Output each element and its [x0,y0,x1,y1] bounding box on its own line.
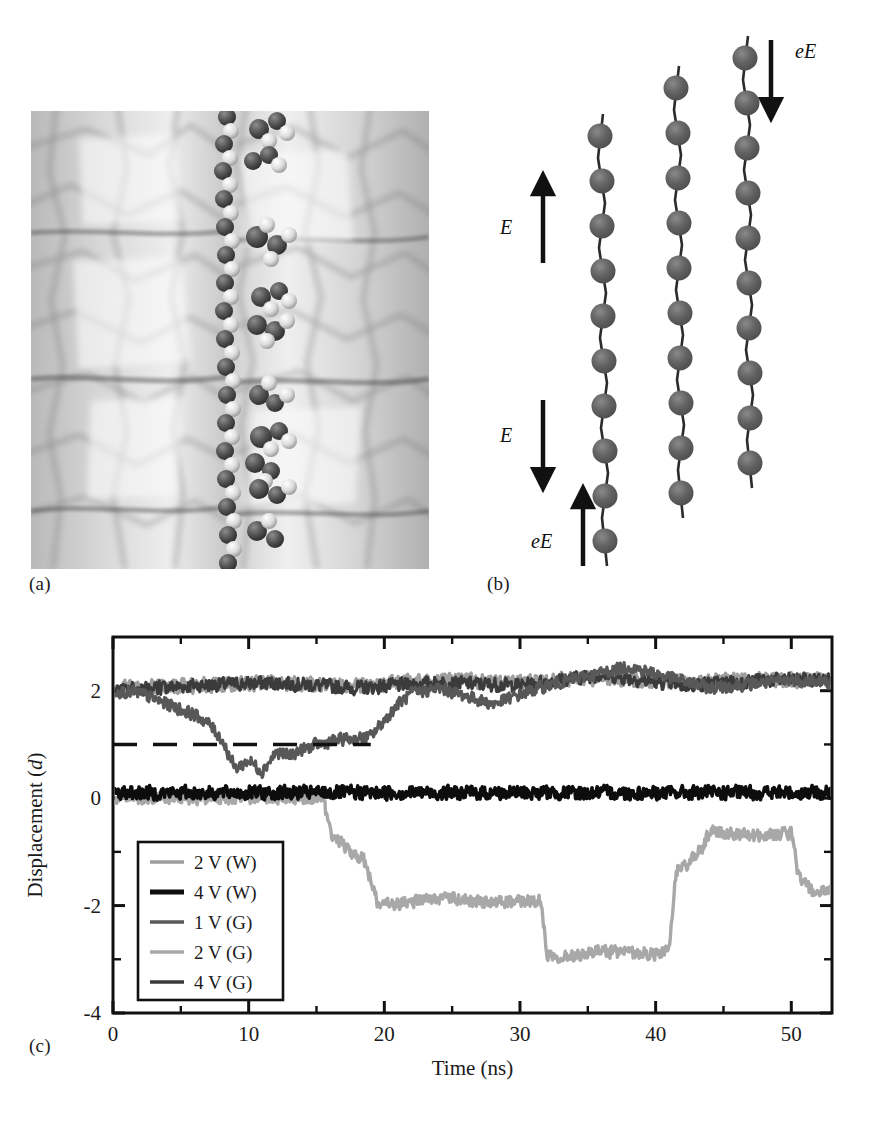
bead [669,481,694,506]
bead [667,211,692,236]
chart-legend: 2 V (W)4 V (W)1 V (G)2 V (G)4 V (G) [138,842,283,1000]
y-tick-label: -4 [84,1001,102,1025]
bead [738,361,763,386]
y-tick-label: -2 [84,894,102,918]
x-tick-label: 50 [781,1022,802,1046]
field-down-label: E [499,424,512,446]
bead [735,136,760,161]
bead [666,121,691,146]
y-tick-label: 2 [91,679,102,703]
bead [590,214,615,239]
bead [737,316,762,341]
x-tick-label: 10 [238,1022,259,1046]
bead [668,346,693,371]
x-tick-label: 20 [374,1022,395,1046]
bead [664,76,689,101]
panel-c-chart: 0102030405020-2-4Time (ns)Displacement (… [0,612,880,1082]
bead [669,436,694,461]
x-tick-label: 0 [108,1022,119,1046]
bead [592,349,617,374]
bead [591,259,616,284]
panel-a-simulation-snapshot [31,111,429,569]
bead [736,226,761,251]
bead [666,166,691,191]
simulation-snapshot-graphic [31,111,429,569]
panel-a-label: (a) [29,573,51,595]
y-axis-title: Displacement (d) [23,752,47,897]
y-tick-label: 0 [91,786,102,810]
chain-schematic-graphic: E E eE eE [455,18,880,578]
displacement-vs-time-chart: 0102030405020-2-4Time (ns)Displacement (… [0,612,880,1082]
force-up-label: eE [531,530,552,552]
bead [593,484,618,509]
legend-label: 1 V (G) [194,912,252,934]
bead [669,391,694,416]
bead [593,439,618,464]
bead [667,256,692,281]
bead [735,91,760,116]
x-tick-label: 30 [509,1022,530,1046]
panel-b-label: (b) [487,573,510,595]
bead [590,169,615,194]
bead [592,394,617,419]
bead [591,304,616,329]
bead [738,406,763,431]
force-down-label: eE [795,40,816,62]
chain-middle [664,66,694,518]
chain-right [733,36,763,488]
bead [588,124,613,149]
legend-label: 2 V (W) [194,852,257,874]
chain-left [588,114,618,566]
field-up-label: E [499,216,512,238]
bead [668,301,693,326]
x-axis-title: Time (ns) [432,1056,514,1080]
legend-label: 2 V (G) [194,942,252,964]
legend-label: 4 V (G) [194,972,252,994]
bead [737,271,762,296]
panel-b-schematic: E E eE eE [455,18,880,578]
bead [593,529,618,554]
x-tick-label: 40 [645,1022,666,1046]
bead [738,451,763,476]
legend-label: 4 V (W) [194,882,257,904]
panel-c-label: (c) [29,1035,51,1057]
bead [733,46,758,71]
bead [736,181,761,206]
